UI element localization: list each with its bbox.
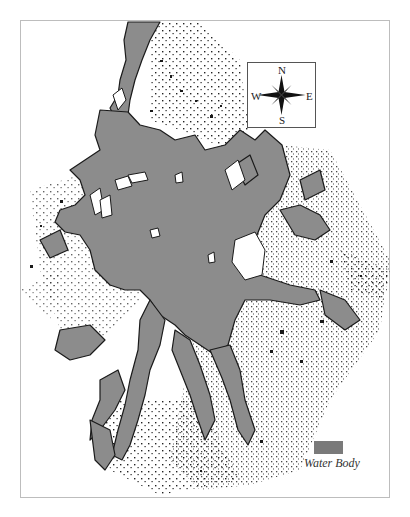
compass-north-label: N (278, 65, 286, 76)
compass-east-label: E (306, 91, 313, 102)
compass-south-label: S (279, 115, 285, 126)
compass-west-label: W (251, 91, 261, 102)
map-canvas (0, 0, 410, 517)
legend-swatch-water (314, 441, 343, 454)
compass-rose: N S W E (247, 62, 316, 128)
legend-label-water: Water Body (304, 456, 360, 471)
